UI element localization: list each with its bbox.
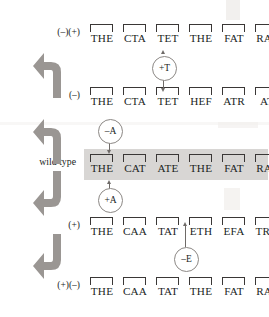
codon-bracket [156,154,179,162]
codon-bracket [189,217,212,225]
codon-bracket [123,24,146,32]
codon-box: CTA [121,87,149,115]
flow-arrow-down-icon [30,170,64,227]
scan-artifact [224,188,240,210]
codon-text: THE [88,32,116,45]
codon-bracket [90,277,113,285]
codon-bracket [90,87,113,95]
codon-bracket [222,24,245,32]
codon-text: CAT [121,162,149,175]
sequence-row-minus-plus: THE CTA TET THE FAT RAT [88,24,269,54]
codon-bracket [222,217,245,225]
codon-text: THE [88,285,116,298]
sequence-row-wild-type: THE CAT ATE THE FAT RAT [88,154,269,184]
codon-box: THE [88,277,116,305]
codon-bracket [255,217,269,225]
flow-arrow-up-icon [30,42,64,99]
flow-arrow-up-icon [30,108,64,165]
sequence-row-minus: THE CTA TET HEF ATR AT [88,87,269,117]
codon-text: FAT [220,162,248,175]
codon-bracket [255,277,269,285]
codon-bracket [90,154,113,162]
codon-box: ATR [220,87,248,115]
sequence-row-plus-minus: THE CAA TAT THE FAT RAT [88,277,269,307]
codon-box: THE [187,277,215,305]
codon-box: TRA [253,217,269,245]
codon-bracket [156,217,179,225]
codon-text: TAT [154,285,182,298]
codon-text: AT [253,95,269,108]
codon-box: RAT [253,277,269,305]
codon-box: EFA [220,217,248,245]
mutation-bubble-insert-t[interactable]: +T [152,56,177,81]
codon-bracket [90,24,113,32]
codon-bracket [156,24,179,32]
mutation-bubble-delete-a[interactable]: –A [98,119,123,144]
codon-text: EFA [220,225,248,238]
codon-box: RAT [253,24,269,52]
codon-box: TAT [154,277,182,305]
mutation-bubble-delete-e[interactable]: –E [174,247,199,272]
codon-box: CAA [121,217,149,245]
codon-text: TAT [154,225,182,238]
codon-box: THE [88,217,116,245]
codon-box: TAT [154,217,182,245]
flow-arrow-down-icon [30,233,64,290]
codon-bracket [255,154,269,162]
codon-text: THE [88,95,116,108]
codon-box: HEF [187,87,215,115]
codon-box: TET [154,24,182,52]
codon-text: TET [154,32,182,45]
scan-artifact [226,0,240,20]
codon-bracket [156,87,179,95]
codon-bracket [255,24,269,32]
codon-box: FAT [220,154,248,182]
codon-text: ATE [154,162,182,175]
codon-text: ETH [187,225,215,238]
codon-text: CAA [121,225,149,238]
codon-box: AT [253,87,269,115]
mutation-pointer-delete-e [185,226,186,247]
codon-text: THE [187,285,215,298]
codon-text: ATR [220,95,248,108]
codon-text: THE [88,225,116,238]
codon-text: RAT [253,32,269,45]
codon-bracket [123,217,146,225]
codon-text: CTA [121,95,149,108]
codon-text: THE [88,162,116,175]
codon-box: CTA [121,24,149,52]
codon-text: RAT [253,285,269,298]
codon-box: THE [88,154,116,182]
figure-canvas: (–)(+) THE CTA TET THE FAT RAT +T (–) [0,0,269,317]
codon-box: CAT [121,154,149,182]
row-label-minus-plus: (–)(+) [14,27,80,38]
codon-bracket [255,87,269,95]
codon-box: THE [88,24,116,52]
codon-bracket [222,87,245,95]
codon-bracket [189,87,212,95]
codon-text: CAA [121,285,149,298]
codon-bracket [90,217,113,225]
codon-box: ATE [154,154,182,182]
codon-box: FAT [220,24,248,52]
codon-box: THE [187,24,215,52]
codon-bracket [123,154,146,162]
codon-box: THE [187,154,215,182]
codon-bracket [156,277,179,285]
codon-bracket [189,277,212,285]
codon-bracket [222,154,245,162]
codon-box: CAA [121,277,149,305]
codon-text: FAT [220,32,248,45]
codon-text: THE [187,162,215,175]
codon-text: TRA [253,225,269,238]
codon-text: THE [187,32,215,45]
codon-box: THE [88,87,116,115]
sequence-row-plus: THE CAA TAT ETH EFA TRA [88,217,269,247]
codon-box: ETH [187,217,215,245]
codon-box: RAT [253,154,269,182]
codon-text: RAT [253,162,269,175]
codon-bracket [189,24,212,32]
codon-text: HEF [187,95,215,108]
codon-bracket [123,87,146,95]
mutation-bubble-insert-a[interactable]: +A [98,188,123,213]
